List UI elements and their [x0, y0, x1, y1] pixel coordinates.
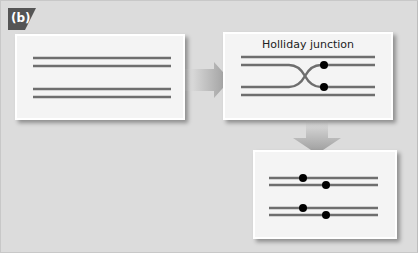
down-arrow-icon	[293, 118, 341, 154]
stage-parallel-duplexes	[15, 34, 185, 120]
stage-resolved-duplexes	[253, 150, 397, 239]
junction-dot-bottom	[320, 83, 328, 91]
junction-dot-top	[320, 61, 328, 69]
duplex-strands	[17, 36, 183, 118]
stage-holliday-junction: Holliday junction	[223, 32, 393, 120]
resolved-dot-2	[322, 181, 330, 189]
resolved-dot-4	[322, 211, 330, 219]
junction-strands	[225, 34, 391, 118]
resolved-dot-1	[299, 174, 307, 182]
resolved-dot-3	[299, 204, 307, 212]
resolved-strands	[255, 152, 395, 237]
